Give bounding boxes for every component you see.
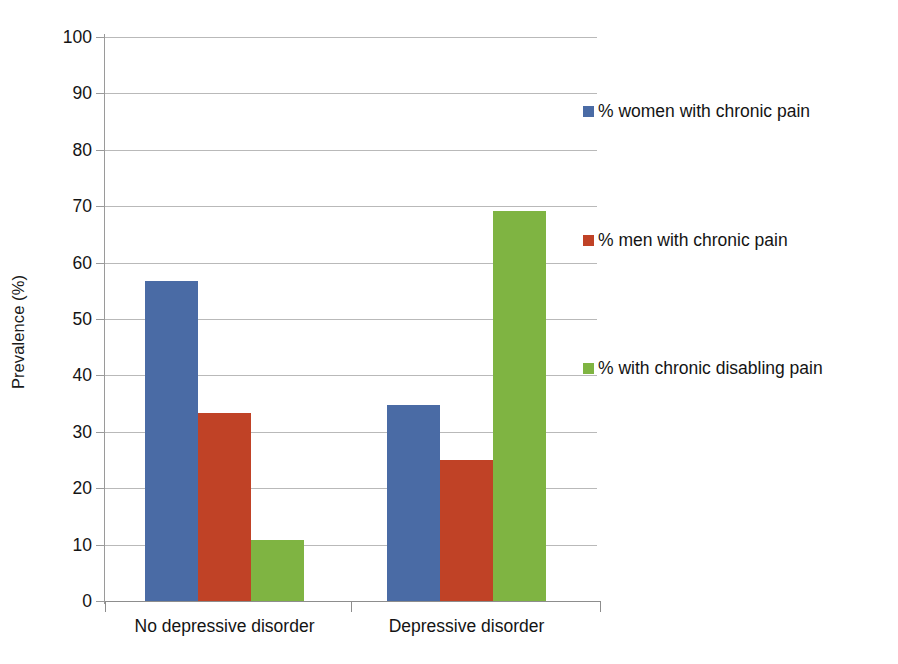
legend-swatch-icon	[583, 363, 594, 374]
legend-item[interactable]: % with chronic disabling pain	[583, 360, 823, 378]
y-axis-tick-label: 90	[40, 83, 92, 104]
x-axis-tick-mark	[105, 601, 106, 612]
legend-item[interactable]: % men with chronic pain	[583, 232, 788, 250]
gridline	[105, 93, 597, 94]
y-axis-tick-label: 80	[40, 139, 92, 160]
y-axis-tick-label: 10	[40, 534, 92, 555]
gridline	[105, 37, 597, 38]
y-axis-tick-label: 40	[40, 365, 92, 386]
x-axis-category-label: No depressive disorder	[135, 616, 315, 637]
x-axis-tick-mark	[351, 601, 352, 612]
legend-item-label: % women with chronic pain	[598, 103, 810, 121]
bar	[251, 540, 304, 601]
bar	[145, 281, 198, 601]
x-axis-category-label: Depressive disorder	[389, 616, 545, 637]
bar-chart-figure: Prevalence (%) 0102030405060708090100 No…	[0, 0, 898, 664]
y-axis-tick-label: 100	[40, 27, 92, 48]
y-axis-tick-label: 70	[40, 196, 92, 217]
legend-item[interactable]: % women with chronic pain	[583, 103, 810, 121]
bar	[493, 211, 546, 601]
legend-item-label: % men with chronic pain	[598, 232, 788, 250]
y-axis-tick-label: 0	[40, 591, 92, 612]
bar	[440, 460, 493, 601]
x-axis-tick-mark	[600, 601, 601, 612]
y-axis-tick-label: 50	[40, 309, 92, 330]
y-axis-tick-label: 30	[40, 421, 92, 442]
legend-item-label: % with chronic disabling pain	[598, 360, 823, 378]
y-axis-tick-label: 60	[40, 252, 92, 273]
gridline	[105, 206, 597, 207]
y-axis-tick-label: 20	[40, 478, 92, 499]
legend-swatch-icon	[583, 235, 594, 246]
y-axis-title: Prevalence (%)	[0, 0, 36, 664]
plot-area	[105, 37, 597, 601]
gridline	[105, 150, 597, 151]
bar	[387, 405, 440, 601]
bar	[198, 413, 251, 601]
legend-swatch-icon	[583, 106, 594, 117]
